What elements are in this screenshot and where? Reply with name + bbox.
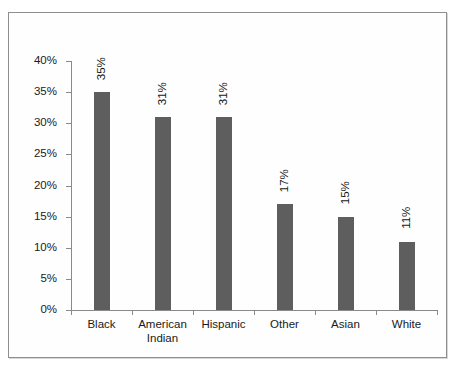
bar-group[interactable]: 31% American Indian [132,61,193,310]
bar[interactable] [216,117,232,310]
y-axis-tick-label: 40% [34,55,57,67]
bar-value-label: 31% [218,82,230,105]
x-axis-category-label: White [376,317,437,331]
bar-group[interactable]: 35% Black [71,61,132,310]
y-axis-tick-label: 30% [34,118,57,130]
x-axis-tick [376,310,377,315]
x-axis-category-label: Hispanic [193,317,254,331]
x-axis-tick [315,310,316,315]
bar[interactable] [155,117,171,310]
y-axis-tick-label: 15% [34,211,57,223]
bar-group[interactable]: 31% Hispanic [193,61,254,310]
bar[interactable] [399,242,415,311]
bar[interactable] [338,217,354,310]
x-axis-tick [132,310,133,315]
bar[interactable] [94,92,110,310]
y-axis-tick-label: 25% [34,149,57,161]
y-axis-tick-label: 5% [40,273,57,285]
x-axis-category-label: Asian [315,317,376,331]
bar-group[interactable]: 15% Asian [315,61,376,310]
bar-group[interactable]: 17% Other [254,61,315,310]
bar-value-label: 35% [96,57,108,80]
x-axis-category-label: American Indian [132,317,193,345]
x-axis-tick [193,310,194,315]
y-axis-tick-label: 20% [34,180,57,192]
bar-group[interactable]: 11% White [376,61,437,310]
y-axis-tick-label: 35% [34,86,57,98]
y-axis-tick-label: 10% [34,242,57,254]
y-axis-tick-label: 0% [40,304,57,316]
bar[interactable] [277,204,293,310]
x-axis-tick [254,310,255,315]
x-axis-tick [71,310,72,315]
bar-value-label: 31% [157,82,169,105]
bar-value-label: 17% [279,169,291,192]
bar-value-label: 11% [401,207,413,229]
x-axis-tick [437,310,438,315]
plot-area: 0% 5% 10% 15% 20% 25% 30% 35% [71,61,437,310]
figure: 0% 5% 10% 15% 20% 25% 30% 35% [0,0,459,380]
x-axis-category-label: Black [71,317,132,331]
chart-frame: 0% 5% 10% 15% 20% 25% 30% 35% [8,12,447,358]
bar-value-label: 15% [340,181,352,204]
x-axis-category-label: Other [254,317,315,331]
